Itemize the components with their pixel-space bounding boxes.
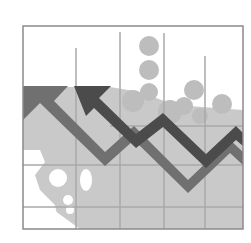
chart-illustration: Declining chart clipart	[0, 0, 251, 243]
